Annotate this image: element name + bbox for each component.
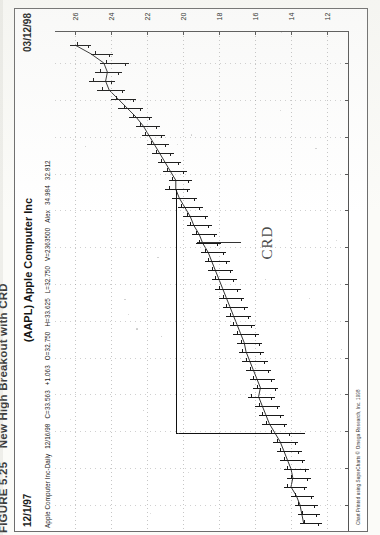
quote-change: +1.063 [44, 365, 51, 385]
ohlc-open-tick [226, 304, 227, 307]
figure-title: New High Breakout with CRD [0, 283, 9, 448]
scan-speck [143, 410, 144, 411]
scan-speck [150, 513, 151, 514]
ohlc-open-tick [116, 96, 117, 99]
scan-speck [177, 144, 178, 145]
ohlc-close-tick [165, 144, 166, 147]
ohlc-open-tick [257, 385, 258, 388]
ohlc-open-tick [298, 502, 299, 505]
ohlc-open-tick [176, 195, 177, 198]
ohlc-close-tick [244, 307, 245, 310]
price-tick [219, 31, 220, 35]
ohlc-open-tick [223, 295, 224, 298]
price-gridline [327, 32, 328, 531]
ohlc-close-tick [140, 108, 141, 111]
price-gridline [147, 32, 148, 531]
ohlc-close-tick [277, 406, 278, 409]
ohlc-close-tick [305, 469, 306, 472]
ohlc-close-tick [271, 397, 272, 400]
ohlc-close-tick [178, 162, 179, 165]
indicator-name: Alex [44, 210, 51, 223]
breakout-line [176, 189, 177, 433]
quote-date: 12/16/98 [44, 424, 51, 449]
copyright-strip: Chart Printed using SuperCharts © Omega … [349, 9, 367, 531]
ohlc-close-tick [264, 361, 265, 364]
price-tick [147, 31, 148, 35]
date-gridline [55, 358, 349, 359]
scan-speck [146, 301, 147, 302]
price-gridline [75, 32, 76, 531]
price-tick-label: 14 [288, 10, 295, 24]
ohlc-close-tick [241, 298, 242, 301]
ohlc-open-tick [242, 349, 243, 352]
ohlc-close-tick [188, 180, 189, 183]
ohlc-close-tick [214, 234, 215, 237]
chart-frame: 12/1/97 (AAPL) Apple Computer Inc 03/12/… [14, 8, 368, 532]
ohlc-open-tick [287, 466, 288, 469]
ohlc-open-tick [287, 484, 288, 487]
ohlc-close-tick [280, 415, 281, 418]
ohlc-open-tick [251, 394, 252, 397]
indicator-high: 34.984 [44, 185, 51, 205]
ohlc-open-tick [208, 258, 209, 261]
date-gridline [55, 284, 349, 285]
ohlc-close-tick [217, 243, 218, 246]
ohlc-open-tick [172, 177, 173, 180]
scan-speck [161, 336, 162, 337]
ohlc-open-tick [95, 51, 96, 54]
scan-speck [85, 146, 86, 147]
ohlc-close-tick [122, 90, 123, 93]
start-date-label: 12/1/97 [22, 494, 33, 527]
ohlc-close-tick [183, 171, 184, 174]
ohlc-close-tick [109, 54, 110, 57]
ohlc-close-tick [316, 514, 317, 517]
ohlc-open-tick [151, 141, 152, 144]
ohlc-close-tick [307, 478, 308, 481]
ohlc-close-tick [111, 81, 112, 84]
ohlc-close-tick [223, 252, 224, 255]
ohlc-open-tick [145, 132, 146, 135]
ohlc-close-tick [248, 316, 249, 319]
price-tick [75, 31, 76, 35]
ohlc-open-tick [295, 493, 296, 496]
ohlc-open-tick [284, 457, 285, 460]
ohlc-close-tick [194, 198, 195, 201]
ohlc-open-tick [219, 286, 220, 289]
ohlc-open-tick [233, 322, 234, 325]
ohlc-open-tick [167, 168, 168, 171]
price-tick [255, 31, 256, 35]
ohlc-close-tick [311, 496, 312, 499]
ohlc-open-tick [156, 150, 157, 153]
price-tick [327, 31, 328, 35]
ohlc-open-tick [140, 123, 141, 126]
ohlc-open-tick [124, 105, 125, 108]
end-date-label: 03/12/98 [22, 13, 33, 52]
ohlc-open-tick [77, 42, 78, 45]
ohlc-open-tick [230, 313, 231, 316]
ohlc-open-tick [181, 204, 182, 207]
price-gridline [183, 32, 184, 531]
price-gridline [219, 32, 220, 531]
date-gridline [55, 100, 349, 101]
date-gridline [55, 247, 349, 248]
ohlc-open-tick [246, 358, 247, 361]
scan-speck [265, 279, 266, 280]
price-tick-label: 22 [144, 10, 151, 24]
indicator-low: 32.812 [44, 160, 51, 180]
quote-high: H=33.625 [44, 298, 51, 326]
moving-average-line [55, 9, 349, 531]
ohlc-open-tick [169, 186, 170, 189]
ohlc-close-tick [318, 523, 319, 526]
scan-speck [341, 349, 342, 350]
price-tick [291, 31, 292, 35]
ohlc-close-tick [233, 279, 234, 282]
price-gridline [291, 32, 292, 531]
ohlc-open-tick [102, 87, 103, 90]
ohlc-close-tick [259, 343, 260, 346]
ohlc-close-tick [289, 433, 290, 436]
ohlc-open-tick [302, 511, 303, 514]
scan-speck [336, 240, 337, 241]
ohlc-open-tick [277, 439, 278, 442]
date-gridline [55, 321, 349, 322]
ohlc-open-tick [291, 475, 292, 478]
